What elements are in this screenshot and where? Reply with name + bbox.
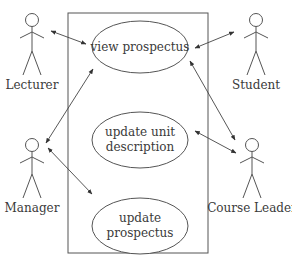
actor-student-figure-icon [244,14,268,76]
association-course-leader-view-prospectus [190,61,235,140]
actor-label-student: Student [232,78,280,92]
actor-lecturer-figure-icon [20,14,44,76]
association-course-leader-update-unit-description [195,131,236,153]
use-case-label-line-1: update [106,211,173,226]
use-case-label-line-1: update unit [105,125,175,140]
actor-label-course-leader: Course Leader [207,201,292,215]
actor-course-leader-figure-icon [240,139,264,199]
use-case-label-view-prospectus: view prospectus [91,40,190,55]
actor-label-lecturer: Lecturer [6,78,59,92]
association-student-view-prospectus [195,32,234,48]
actor-label-manager: Manager [5,201,60,215]
use-case-label-line-2: prospectus [106,226,173,241]
use-case-label-update-unit-description: update unit description [105,125,175,155]
use-case-diagram: view prospectus update unit description … [0,0,292,262]
use-case-label-update-prospectus: update prospectus [106,211,173,241]
use-case-label-text: view prospectus [91,40,190,54]
association-manager-update-prospectus [48,148,92,194]
use-case-label-line-2: description [105,140,175,155]
actor-manager-figure-icon [20,139,44,199]
